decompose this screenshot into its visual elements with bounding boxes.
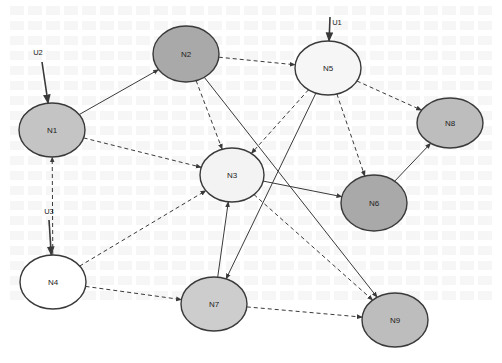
input-label-u1: U1 [332, 18, 342, 27]
node-n7: N7 [181, 277, 247, 331]
edge-n2-to-n3 [196, 81, 222, 150]
edge-n4-to-n1 [52, 157, 53, 255]
edge-n4-to-n3 [80, 191, 206, 267]
edge-u2-to-n1 [42, 62, 48, 103]
node-n9: N9 [362, 293, 428, 347]
node-label: N7 [209, 300, 220, 309]
edge-n3-to-n6 [263, 181, 342, 197]
edge-n5-to-n3 [251, 90, 308, 154]
node-label: N5 [323, 64, 334, 73]
network-diagram: N1N2N3N4N5N6N7N8N9 U1U2U3 [0, 0, 502, 363]
edge-n5-to-n8 [357, 81, 422, 110]
node-n4: N4 [20, 255, 86, 309]
edge-n1-to-n3 [84, 138, 202, 167]
nodes-layer: N1N2N3N4N5N6N7N8N9 [19, 26, 483, 347]
node-label: N9 [390, 316, 401, 325]
edge-n6-to-n8 [395, 143, 431, 181]
node-n3: N3 [200, 148, 264, 202]
input-label-u2: U2 [33, 48, 43, 57]
node-label: N3 [227, 171, 238, 180]
edge-n7-to-n3 [218, 202, 229, 277]
node-label: N6 [369, 199, 380, 208]
node-n6: N6 [341, 175, 407, 231]
node-n2: N2 [153, 26, 219, 82]
edge-n5-to-n6 [337, 94, 365, 176]
node-label: N4 [48, 278, 59, 287]
node-label: N2 [181, 50, 192, 59]
edge-n1-to-n2 [79, 70, 159, 115]
node-n1: N1 [19, 103, 85, 157]
node-n8: N8 [417, 98, 483, 148]
edge-n7-to-n9 [247, 307, 362, 317]
node-label: N1 [47, 126, 58, 135]
edge-u3-to-n4 [49, 220, 51, 255]
input-label-u3: U3 [44, 207, 54, 216]
node-label: N8 [445, 119, 456, 128]
edge-n2-to-n5 [219, 57, 295, 65]
edge-n4-to-n7 [86, 286, 182, 299]
node-n5: N5 [295, 41, 361, 95]
edge-u1-to-n5 [329, 17, 330, 41]
